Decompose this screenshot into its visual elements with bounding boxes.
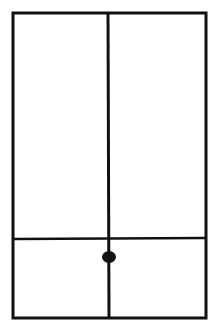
dot-marker xyxy=(102,251,116,263)
horizontal-divider xyxy=(13,238,206,239)
diagram-canvas xyxy=(0,0,216,328)
vertical-divider xyxy=(108,13,109,318)
